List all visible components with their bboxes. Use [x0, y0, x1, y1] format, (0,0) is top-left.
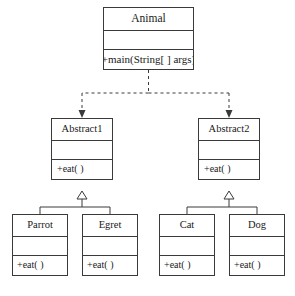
- uml-class-operations-animal: +main(String[ ] args): [104, 49, 193, 69]
- uml-class-operations-dog: +eat( ): [230, 255, 284, 275]
- uml-class-diagram: Animal +main(String[ ] args) Abstract1 +…: [0, 0, 295, 296]
- uml-class-abstract1[interactable]: Abstract1 +eat( ): [51, 118, 113, 180]
- dependency-edge-animal-abstract2: [149, 93, 233, 118]
- uml-class-name-egret: Egret: [83, 215, 137, 236]
- dependency-edge-animal-abstract1: [79, 70, 149, 118]
- uml-class-parrot[interactable]: Parrot +eat( ): [12, 214, 68, 276]
- uml-class-attributes-animal: [104, 30, 193, 48]
- uml-class-operations-egret: +eat( ): [83, 255, 137, 275]
- uml-class-dog[interactable]: Dog +eat( ): [229, 214, 285, 276]
- uml-class-operations-parrot: +eat( ): [13, 255, 67, 275]
- uml-class-name-abstract1: Abstract1: [52, 119, 112, 140]
- uml-class-cat[interactable]: Cat +eat( ): [159, 214, 215, 276]
- uml-class-attributes-parrot: [13, 236, 67, 254]
- uml-class-abstract2[interactable]: Abstract2 +eat( ): [198, 118, 260, 180]
- uml-class-operations-abstract2: +eat( ): [199, 159, 259, 179]
- generalization-edge-right-group: [187, 191, 257, 214]
- uml-class-name-abstract2: Abstract2: [199, 119, 259, 140]
- uml-class-animal[interactable]: Animal +main(String[ ] args): [103, 7, 194, 70]
- uml-class-name-dog: Dog: [230, 215, 284, 236]
- uml-class-attributes-egret: [83, 236, 137, 254]
- uml-class-attributes-abstract1: [52, 140, 112, 158]
- uml-class-name-animal: Animal: [104, 8, 193, 30]
- uml-class-name-parrot: Parrot: [13, 215, 67, 236]
- uml-class-attributes-dog: [230, 236, 284, 254]
- generalization-edge-left-group: [40, 191, 110, 214]
- uml-class-operations-cat: +eat( ): [160, 255, 214, 275]
- uml-class-egret[interactable]: Egret +eat( ): [82, 214, 138, 276]
- uml-class-attributes-abstract2: [199, 140, 259, 158]
- uml-class-operations-abstract1: +eat( ): [52, 159, 112, 179]
- uml-class-name-cat: Cat: [160, 215, 214, 236]
- uml-class-attributes-cat: [160, 236, 214, 254]
